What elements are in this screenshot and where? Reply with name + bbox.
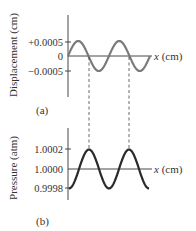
- panel-b-tag: (b): [36, 215, 49, 228]
- panel-b-ylabel: Pressure (atm): [7, 136, 20, 200]
- panel-a-tag: (a): [36, 104, 49, 117]
- panel-b-tick-label-low: 0.9998: [34, 183, 63, 194]
- wave-diagram: Displacement (cm) +0.0005 0 −0.0005 x (c…: [0, 0, 196, 231]
- panel-a: Displacement (cm) +0.0005 0 −0.0005 x (c…: [7, 13, 183, 117]
- panel-b-tick-label-mid: 1.0000: [34, 164, 63, 175]
- panel-a-ylabel: Displacement (cm): [7, 13, 20, 97]
- panel-a-xlabel: x (cm): [153, 50, 183, 63]
- panel-b-tick-label-high: 1.0002: [34, 144, 63, 155]
- panel-a-tick-label-zero: 0: [58, 51, 63, 62]
- panel-a-tick-label-neg: −0.0005: [28, 66, 63, 77]
- panel-a-tick-label-pos: +0.0005: [28, 37, 63, 48]
- panel-b: Pressure (atm) 1.0002 1.0000 0.9998 x (c…: [7, 128, 183, 228]
- panel-b-xlabel: x (cm): [153, 163, 183, 176]
